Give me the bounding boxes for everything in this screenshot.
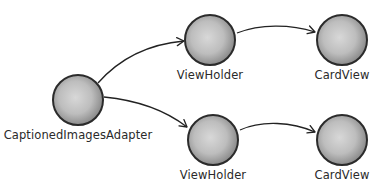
node-captioned-images-adapter (53, 75, 103, 125)
label-captioned-images-adapter: CaptionedImagesAdapter (4, 128, 153, 142)
label-cardview-top: CardView (315, 68, 370, 82)
node-cardview-bottom (317, 115, 367, 165)
label-viewholder-top: ViewHolder (177, 68, 243, 82)
node-viewholder-top (185, 15, 235, 65)
label-cardview-bottom: CardView (315, 168, 370, 182)
node-viewholder-bottom (188, 115, 238, 165)
arrow-adapter-to-viewholder-top (98, 41, 184, 83)
diagram-canvas (0, 0, 390, 188)
node-cardview-top (317, 15, 367, 65)
arrow-viewholder-bottom-to-cardview-bottom (240, 123, 315, 132)
arrow-adapter-to-viewholder-bottom (104, 97, 187, 127)
label-viewholder-bottom: ViewHolder (180, 168, 246, 182)
arrow-viewholder-top-to-cardview-top (237, 26, 315, 33)
